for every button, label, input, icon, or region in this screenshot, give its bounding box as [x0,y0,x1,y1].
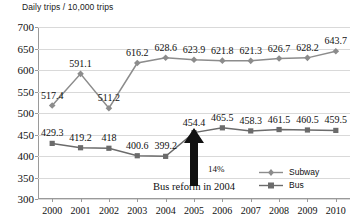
data-label-bus: 429.3 [41,128,64,138]
bus-reform-caption: Bus reform in 2004 [153,181,235,192]
data-point-subway [333,48,340,55]
data-point-bus [333,128,338,133]
x-tick-label: 2003 [127,205,147,216]
data-point-bus [106,146,111,151]
x-tick-label: 2007 [241,205,261,216]
data-label-bus: 458.3 [239,116,262,126]
data-point-subway [162,54,169,61]
x-tick-mark [52,199,53,202]
y-tick-label: 700 [18,21,35,33]
x-tick-mark [307,199,308,202]
x-tick-label: 2000 [42,205,62,216]
x-tick-mark [336,199,337,202]
legend-item-bus[interactable]: Bus [258,178,319,191]
data-point-subway [219,57,226,64]
data-point-subway [304,55,311,62]
chart-container: Daily trips / 10,000 trips 3003504004505… [0,0,359,224]
x-tick-label: 2001 [71,205,91,216]
data-point-bus [78,145,83,150]
data-point-bus [276,127,281,132]
data-point-bus [220,125,225,130]
data-label-bus: 399.2 [154,141,177,151]
legend-label-subway: Subway [289,167,319,177]
data-label-bus: 465.5 [211,113,234,123]
x-tick-mark [166,199,167,202]
data-label-subway: 511.2 [98,93,120,103]
data-label-subway: 628.6 [154,43,177,53]
bus-reform-arrow-icon [183,128,205,186]
x-tick-mark [81,199,82,202]
x-tick-mark [251,199,252,202]
x-tick-mark [137,199,138,202]
x-tick-label: 2008 [269,205,289,216]
data-label-bus: 461.5 [268,115,291,125]
x-tick-label: 2006 [212,205,232,216]
y-tick-label: 400 [18,150,35,162]
data-label-bus: 459.5 [325,115,348,125]
data-label-subway: 621.3 [239,46,262,56]
data-label-subway: 517.4 [41,91,64,101]
x-tick-mark [279,199,280,202]
data-label-bus: 418 [101,133,116,143]
x-tick-label: 2005 [184,205,204,216]
y-tick-label: 500 [18,107,35,119]
data-point-bus [248,128,253,133]
data-label-subway: 623.9 [183,45,206,55]
data-point-subway [247,58,254,65]
y-tick-mark [35,199,38,200]
data-label-bus: 400.6 [126,141,149,151]
y-tick-label: 550 [18,86,35,98]
data-point-bus [50,141,55,146]
legend-label-bus: Bus [289,180,304,190]
data-point-bus [135,153,140,158]
data-point-subway [191,56,198,63]
data-point-bus [163,154,168,159]
growth-percent-label: 14% [208,164,225,174]
data-label-bus: 454.4 [183,118,206,128]
y-tick-label: 300 [18,193,35,205]
legend-marker-subway-icon [258,165,284,178]
x-tick-mark [222,199,223,202]
data-label-subway: 643.7 [325,36,348,46]
x-tick-mark [109,199,110,202]
y-tick-label: 650 [18,43,35,55]
x-tick-label: 2009 [297,205,317,216]
y-tick-label: 600 [18,64,35,76]
y-tick-label: 350 [18,172,35,184]
data-label-bus: 419.2 [69,133,92,143]
x-tick-label: 2010 [326,205,346,216]
x-tick-label: 2004 [156,205,176,216]
legend-item-subway[interactable]: Subway [258,165,319,178]
y-axis-title: Daily trips / 10,000 trips [22,2,113,12]
legend-marker-bus-icon [258,178,284,191]
y-tick-label: 450 [18,129,35,141]
data-label-subway: 591.1 [69,59,92,69]
data-point-bus [305,127,310,132]
data-label-subway: 628.2 [296,43,319,53]
data-label-bus: 460.5 [296,115,319,125]
data-label-subway: 626.7 [268,44,291,54]
x-tick-mark [194,199,195,202]
data-label-subway: 621.8 [211,46,234,56]
data-point-subway [276,55,283,62]
chart-legend: Subway Bus [258,165,319,191]
x-tick-label: 2002 [99,205,119,216]
data-label-subway: 616.2 [126,48,149,58]
